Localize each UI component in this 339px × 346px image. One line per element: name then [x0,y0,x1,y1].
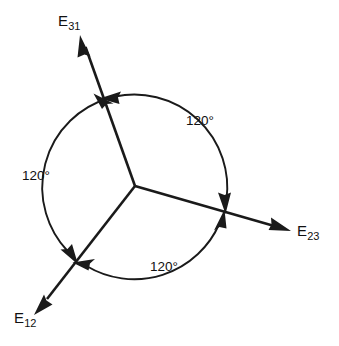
vector-e31-arrowhead [78,35,91,58]
angle-arc-bottom-arrowhead-start [214,210,227,231]
vector-label-e23-subscript: 23 [307,230,319,242]
vector-label-e12-base: E [14,309,24,326]
angle-arc-left [42,94,113,265]
vector-label-e12: E12 [14,309,36,329]
vector-e31-line [86,47,136,186]
angle-label-top-right: 120° [186,113,214,128]
vector-label-e23: E23 [297,222,319,242]
vector-label-e31: E31 [58,12,80,32]
vector-e23 [135,186,291,231]
vector-e31 [78,35,136,186]
phasor-diagram: E31 E23 E12 120° 120° 120° [0,0,339,346]
vector-label-e31-base: E [58,12,68,29]
angle-label-bottom: 120° [150,259,178,274]
vector-label-e23-base: E [297,222,307,239]
angle-arc-left-path [42,99,107,252]
phasor-canvas [0,0,339,346]
vector-e23-line [135,186,276,227]
angle-label-left: 120° [22,168,50,183]
vector-label-e31-subscript: 31 [68,20,80,32]
angle-arc-top-right-path [115,95,227,200]
vector-e23-arrowhead [269,218,292,232]
vector-e12 [34,186,135,315]
vector-label-e12-subscript: 12 [24,317,36,329]
